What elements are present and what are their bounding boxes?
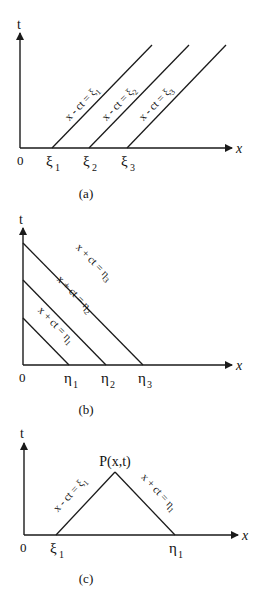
point-p-label: P(x,t) xyxy=(99,454,131,470)
characteristic-line-eta2 xyxy=(23,280,106,365)
caption-c: (c) xyxy=(79,571,93,586)
line-label-xi1: x - ct = ξ1 xyxy=(50,474,90,516)
line-label-xi1: x - ct = ξ1 xyxy=(62,83,103,125)
svg-text:x - ct = ξ1: x - ct = ξ1 xyxy=(50,474,90,516)
panel-a: t x 0 ξ 1 ξ 2 ξ 3 x - ct = ξ1 x - ct = ξ… xyxy=(17,17,243,201)
x-axis-label: x xyxy=(235,141,243,156)
tick-xi2: ξ 2 xyxy=(83,153,97,173)
line-label-xi3: x - ct = ξ3 xyxy=(136,83,177,125)
svg-text:1: 1 xyxy=(73,379,78,390)
line-label-eta3: x + ct = η3 xyxy=(72,241,115,285)
svg-text:2: 2 xyxy=(92,162,97,173)
panel-b: t x 0 η 1 η 2 η 3 x + ct = η1 x + ct = η… xyxy=(19,212,243,417)
x-axis-label: x xyxy=(235,358,243,373)
svg-text:1: 1 xyxy=(59,549,64,560)
svg-text:η: η xyxy=(138,370,146,386)
svg-text:3: 3 xyxy=(147,379,152,390)
svg-text:x + ct = η1: x + ct = η1 xyxy=(34,304,77,348)
svg-text:1: 1 xyxy=(55,162,60,173)
svg-text:x - ct = ξ3: x - ct = ξ3 xyxy=(136,83,177,125)
t-axis-label: t xyxy=(20,426,24,441)
svg-text:x - ct = ξ2: x - ct = ξ2 xyxy=(99,83,140,125)
line-label-eta2: x + ct = η2 xyxy=(53,273,96,317)
characteristic-line-xi3 xyxy=(127,45,226,148)
tick-eta3: η 3 xyxy=(138,370,152,390)
tick-eta1: η 1 xyxy=(64,370,78,390)
svg-text:ξ: ξ xyxy=(83,153,90,169)
line-label-eta1: x + ct = η1 xyxy=(137,471,180,515)
svg-text:η: η xyxy=(169,540,177,556)
svg-text:3: 3 xyxy=(130,162,135,173)
svg-text:x + ct = η1: x + ct = η1 xyxy=(137,471,180,515)
caption-b: (b) xyxy=(78,402,93,417)
origin-label: 0 xyxy=(20,540,27,555)
svg-text:1: 1 xyxy=(178,549,183,560)
svg-text:ξ: ξ xyxy=(50,540,57,556)
line-label-xi2: x - ct = ξ2 xyxy=(99,83,140,125)
svg-text:x + ct = η2: x + ct = η2 xyxy=(53,273,96,317)
t-axis-label: t xyxy=(19,212,23,227)
origin-label: 0 xyxy=(17,153,24,168)
svg-text:η: η xyxy=(64,370,72,386)
x-axis-label: x xyxy=(241,528,249,543)
svg-text:η: η xyxy=(101,370,109,386)
svg-text:ξ: ξ xyxy=(46,153,53,169)
svg-text:2: 2 xyxy=(110,379,115,390)
characteristics-diagram: t x 0 ξ 1 ξ 2 ξ 3 x - ct = ξ1 x - ct = ξ… xyxy=(0,0,259,600)
tick-xi3: ξ 3 xyxy=(121,153,135,173)
panel-c: t x 0 P(x,t) ξ 1 η 1 x - ct = ξ1 x + ct … xyxy=(20,426,249,586)
tick-xi1: ξ 1 xyxy=(46,153,60,173)
line-label-eta1: x + ct = η1 xyxy=(34,304,77,348)
origin-label: 0 xyxy=(19,370,26,385)
svg-text:ξ: ξ xyxy=(121,153,128,169)
svg-text:x + ct = η3: x + ct = η3 xyxy=(72,241,115,285)
t-axis-label: t xyxy=(17,17,21,32)
svg-text:x - ct = ξ1: x - ct = ξ1 xyxy=(62,83,103,125)
tick-xi1: ξ 1 xyxy=(50,540,64,560)
caption-a: (a) xyxy=(79,186,93,201)
tick-eta1: η 1 xyxy=(169,540,183,560)
tick-eta2: η 2 xyxy=(101,370,115,390)
